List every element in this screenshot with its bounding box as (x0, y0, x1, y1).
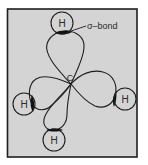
sigma-bond-label: σ–bond (87, 21, 118, 31)
carbon-label: C (67, 73, 74, 83)
hydrogen-label-top: H (58, 18, 65, 29)
hydrogen-label-left: H (20, 99, 27, 110)
hydrogen-label-bottom: H (50, 135, 57, 146)
hydrogen-label-right: H (121, 94, 128, 105)
diagram-canvas: H H H H C σ–bond (0, 0, 148, 165)
methane-orbital-diagram: H H H H C σ–bond (0, 0, 148, 165)
